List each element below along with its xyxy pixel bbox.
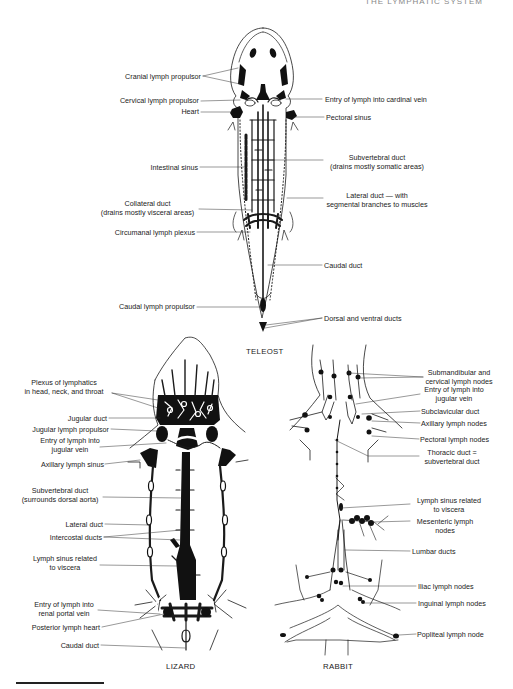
rabbit-inguinal-nodes — [317, 594, 365, 604]
label-rabbit-lymph-sinus-line2: to viscera — [412, 505, 486, 514]
label-teleost-circumanal-lymph-plexus: Circumanal lymph plexus — [90, 228, 195, 237]
label-lizard-plexus-line1: Plexus of lymphatics — [18, 378, 110, 387]
label-lizard-jugular-duct: Jugular duct — [40, 414, 107, 423]
label-lizard-entry-renal-line2: renal portal vein — [28, 609, 100, 618]
label-teleost-caudal-duct: Caudal duct — [324, 261, 362, 270]
label-rabbit-entry-jugular-line1: Entry of lymph into — [418, 385, 490, 394]
lizard-jugular-propulsor-right — [206, 426, 218, 442]
label-teleost-lateral-duct-line1: Lateral duct — with — [322, 191, 432, 200]
label-rabbit-axillary-lymph-nodes: Axillary lymph nodes — [421, 419, 487, 428]
label-lizard-jugular-lymph-propulsor: Jugular lymph propulsor — [15, 425, 109, 434]
rabbit-cervical-nodes — [302, 370, 372, 435]
teleost-eye-left — [248, 47, 257, 58]
label-rabbit-thoracic-duct-line1: Thoracic duct = — [416, 448, 488, 457]
label-teleost-subvertebral-duct-line1: Subvertebral duct — [322, 153, 432, 162]
lizard-jugular-propulsor-left — [156, 426, 168, 442]
teleost-illustration — [228, 28, 298, 332]
rabbit-illustration — [275, 345, 402, 655]
lizard-posterior-lymph-heart-right — [201, 607, 211, 617]
label-rabbit-lymph-sinus: Lymph sinus related to viscera — [412, 496, 486, 514]
label-teleost-subvertebral-duct-line2: (drains mostly somatic areas) — [322, 162, 432, 171]
label-rabbit-submandibular: Submandibular and cervical lymph nodes — [420, 368, 498, 386]
rabbit-head-outline — [290, 345, 402, 430]
label-lizard-entry-jugular-line2: jugular vein — [35, 445, 105, 454]
label-teleost-subvertebral-duct: Subvertebral duct (drains mostly somatic… — [322, 153, 432, 171]
label-lizard-subvertebral-duct-line1: Subvertebral duct — [18, 486, 102, 495]
label-lizard-subvertebral-duct-line2: (surrounds dorsal aorta) — [18, 495, 102, 504]
label-teleost-cervical-lymph-propulsor: Cervical lymph propulsor — [70, 96, 199, 105]
label-teleost-pectoral-sinus: Pectoral sinus — [326, 113, 371, 122]
rabbit-iliac-nodes — [305, 568, 372, 586]
label-teleost-collateral-duct-line2: (drains mostly visceral areas) — [95, 208, 200, 217]
caption-rule — [16, 682, 104, 684]
label-rabbit-lumbar-ducts: Lumbar ducts — [412, 547, 456, 556]
lizard-illustration — [128, 337, 248, 650]
lizard-subvertebral-duct — [176, 452, 196, 600]
panel-title-lizard: LIZARD — [166, 662, 196, 671]
label-rabbit-thoracic-duct: Thoracic duct = subvertebral duct — [416, 448, 488, 466]
label-rabbit-subclavicular-duct: Subclavicular duct — [421, 407, 479, 416]
label-rabbit-popliteal-lymph-node: Popliteal lymph node — [417, 630, 484, 639]
label-rabbit-iliac-lymph-nodes: Iliac lymph nodes — [418, 582, 474, 591]
label-rabbit-submandibular-line1: Submandibular and — [420, 368, 498, 377]
label-lizard-subvertebral-duct: Subvertebral duct (surrounds dorsal aort… — [18, 486, 102, 504]
label-teleost-intestinal-sinus: Intestinal sinus — [110, 163, 198, 172]
label-lizard-entry-renal-line1: Entry of lymph into — [28, 600, 100, 609]
label-lizard-axillary-lymph-sinus: Axillary lymph sinus — [20, 460, 104, 469]
teleost-caudal-propulsor — [260, 298, 266, 312]
lizard-posterior-lymph-heart-left — [163, 607, 173, 617]
label-teleost-dorsal-ventral-ducts: Dorsal and ventral ducts — [324, 314, 402, 323]
teleost-pectoral-sinus — [286, 110, 297, 120]
label-rabbit-entry-jugular: Entry of lymph into jugular vein — [418, 385, 490, 403]
label-teleost-caudal-lymph-propulsor: Caudal lymph propulsor — [90, 302, 195, 311]
label-rabbit-inguinal-lymph-nodes: Inguinal lymph nodes — [418, 599, 486, 608]
label-rabbit-mesenteric-line2: nodes — [410, 526, 480, 535]
teleost-eye-right — [268, 47, 277, 58]
label-teleost-lateral-duct: Lateral duct — with segmental branches t… — [322, 191, 432, 209]
label-teleost-cranial-lymph-propulsor: Cranial lymph propulsor — [78, 72, 201, 81]
lizard-axillary-sinus-right — [218, 448, 236, 466]
label-rabbit-entry-jugular-line2: jugular vein — [418, 394, 490, 403]
label-rabbit-thoracic-duct-line2: subvertebral duct — [416, 457, 488, 466]
label-lizard-lymph-sinus-line2: to viscera — [30, 563, 100, 572]
label-lizard-entry-jugular-line1: Entry of lymph into — [35, 436, 105, 445]
label-teleost-collateral-duct: Collateral duct (drains mostly visceral … — [95, 199, 200, 217]
label-lizard-entry-jugular: Entry of lymph into jugular vein — [35, 436, 105, 454]
lizard-axillary-sinus-left — [140, 448, 158, 468]
label-rabbit-pectoral-lymph-nodes: Pectoral lymph nodes — [420, 435, 489, 444]
label-lizard-lymph-sinus: Lymph sinus related to viscera — [30, 554, 100, 572]
label-lizard-plexus-line2: in head, neck, and throat — [18, 387, 110, 396]
label-lizard-posterior-lymph-heart: Posterior lymph heart — [15, 623, 100, 632]
label-lizard-plexus: Plexus of lymphatics in head, neck, and … — [18, 378, 110, 396]
panel-title-teleost: TELEOST — [246, 347, 284, 356]
rabbit-popliteal-node-left — [280, 633, 286, 637]
rabbit-popliteal-node-right — [393, 634, 399, 639]
label-rabbit-mesenteric-line1: Mesenteric lymph — [410, 517, 480, 526]
label-rabbit-lymph-sinus-line1: Lymph sinus related — [412, 496, 486, 505]
label-teleost-entry-cardinal-vein: Entry of lymph into cardinal vein — [325, 95, 427, 104]
label-lizard-lateral-duct: Lateral duct — [40, 520, 103, 529]
label-lizard-entry-renal: Entry of lymph into renal portal vein — [28, 600, 100, 618]
label-lizard-lymph-sinus-line1: Lymph sinus related — [30, 554, 100, 563]
label-teleost-heart: Heart — [150, 107, 199, 116]
label-lizard-intercostal-ducts: Intercostal ducts — [30, 533, 102, 542]
panel-title-rabbit: RABBIT — [323, 662, 353, 671]
label-teleost-lateral-duct-line2: segmental branches to muscles — [322, 200, 432, 209]
label-rabbit-mesenteric: Mesenteric lymph nodes — [410, 517, 480, 535]
label-lizard-caudal-duct: Caudal duct — [40, 641, 99, 650]
label-teleost-collateral-duct-line1: Collateral duct — [95, 199, 200, 208]
